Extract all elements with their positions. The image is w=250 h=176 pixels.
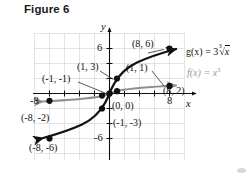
- point-label-neg8-neg2: (-8, -2): [21, 113, 49, 123]
- point-8-6: [166, 45, 172, 51]
- point-label-neg1-neg1: (-1, -1): [42, 74, 70, 84]
- y-tick-label-6: 6: [97, 43, 102, 54]
- f-function-label: f(x) = x3: [187, 67, 220, 78]
- x-tick-label-8: 8: [167, 96, 172, 107]
- cube-root-icon: 3√x: [218, 47, 230, 57]
- point-label-1-3: (1, 3): [77, 62, 99, 72]
- point-1-1: [114, 88, 120, 94]
- g-radicand: x: [225, 46, 229, 57]
- point-neg8-neg2: [46, 98, 52, 104]
- point-label-neg8-neg6: (-8, -6): [29, 143, 57, 153]
- y-tick-label-neg6: -6: [94, 133, 103, 144]
- point-label-0-0: (0, 0): [112, 101, 134, 111]
- point-neg1-neg3: [99, 105, 105, 111]
- point-label-8-2: (8, 2): [163, 86, 185, 96]
- y-axis-label: y: [101, 22, 106, 33]
- x-tick-label-neg8: -8: [30, 96, 39, 107]
- point-1-3: [114, 75, 120, 81]
- f-function-text: f(x) = x: [187, 67, 217, 78]
- point-neg1-neg1: [99, 93, 105, 99]
- point-label-neg1-neg3: (-1, -3): [113, 118, 141, 128]
- x-axis-label: x: [186, 99, 191, 110]
- g-function-prefix: g(x) = 3: [186, 46, 218, 57]
- leader-neg1-neg1: [78, 82, 105, 93]
- figure-container: Figure 6: [0, 0, 250, 176]
- ellipse-smudge-icon: [237, 168, 246, 173]
- point-label-8-6: (8, 6): [132, 39, 154, 49]
- radical-index: 3: [219, 43, 222, 49]
- f-exponent: 3: [217, 66, 220, 73]
- point-neg8-neg6: [46, 135, 52, 141]
- g-function-label: g(x) = 33√x: [186, 47, 230, 57]
- point-origin-g: [106, 90, 112, 96]
- point-label-1-1: (1, 1): [126, 63, 148, 73]
